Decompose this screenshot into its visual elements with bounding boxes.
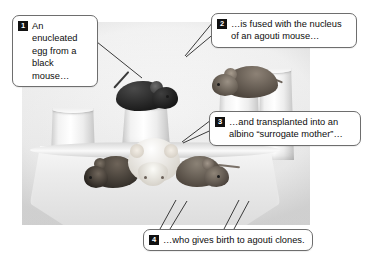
agouti-clone-right [172,154,240,192]
mouse-ear-left [130,144,144,158]
mouse-head [152,87,178,109]
agouti-mouse [208,62,282,102]
callout-1-text: An enucleated egg from a black mouse… [32,20,91,82]
callout-2-text: …is fused with the nucleus of an agouti … [231,18,350,43]
callout-3-text: …and transplanted into an albino “surrog… [229,116,354,141]
callout-4-number-badge: 4 [149,235,159,245]
callout-2-number-badge: 2 [217,19,227,29]
callout-4[interactable]: 4 …who gives birth to agouti clones. [143,229,313,251]
mouse-eye [217,83,220,86]
mouse-eye [89,176,92,179]
callout-3[interactable]: 3 …and transplanted into an albino “surr… [209,111,361,146]
mouse-eye [166,95,169,98]
cloning-diagram-figure: 1 An enucleated egg from a black mouse… … [0,0,366,260]
mouse-eye-right [161,176,164,179]
callout-3-number-badge: 3 [215,117,225,127]
mouse-head [84,166,108,188]
mouse-head [212,74,238,96]
callout-1-number-badge: 1 [18,21,28,31]
callout-4-text: …who gives birth to agouti clones. [163,234,305,246]
callout-1[interactable]: 1 An enucleated egg from a black mouse… [12,15,98,87]
mouse-head [138,162,168,186]
mouse-eye-left [144,176,147,179]
black-mouse [100,77,178,115]
mouse-eye [217,175,220,178]
callout-2[interactable]: 2 …is fused with the nucleus of an agout… [211,13,357,48]
